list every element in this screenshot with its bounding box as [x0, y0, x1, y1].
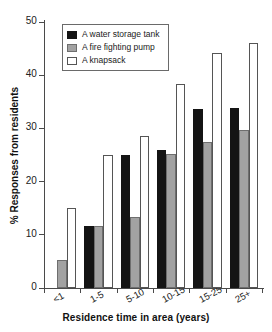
legend-swatch-icon: [67, 57, 77, 65]
y-tick-label: 20: [26, 175, 37, 186]
bar: [249, 43, 259, 288]
bar-chart: 01020304050 <11-55-1010-1515-2525+ A wat…: [0, 0, 272, 332]
x-tick-mark: [226, 288, 227, 293]
bar: [157, 150, 167, 288]
x-tick-label: <1: [51, 290, 66, 305]
bar: [140, 136, 150, 288]
bar: [121, 155, 131, 288]
bar: [230, 108, 240, 288]
legend-swatch-icon: [67, 44, 77, 52]
bar: [166, 154, 176, 288]
bar: [239, 130, 249, 288]
bar: [130, 217, 140, 288]
legend-item: A knapsack: [67, 54, 164, 67]
x-tick-label: 1-5: [88, 289, 105, 305]
bar: [193, 109, 203, 288]
legend-swatch-icon: [67, 31, 77, 39]
x-tick-mark: [44, 288, 45, 293]
bar: [57, 260, 67, 288]
y-tick-label: 30: [26, 121, 37, 132]
legend-item: A fire fighting pump: [67, 41, 164, 54]
x-tick-mark: [262, 288, 263, 293]
bar: [94, 226, 104, 288]
bar: [67, 208, 77, 288]
bar: [203, 142, 213, 288]
y-tick-label: 40: [26, 68, 37, 79]
bar: [103, 155, 113, 288]
y-axis-title: % Responses from residents: [9, 56, 20, 256]
legend-item-label: A water storage tank: [82, 30, 160, 39]
legend-item-label: A fire fighting pump: [82, 43, 155, 52]
x-tick-mark: [153, 288, 154, 293]
y-tick-label: 10: [26, 228, 37, 239]
x-tick-mark: [80, 288, 81, 293]
x-tick-label: 25+: [233, 287, 252, 304]
bar: [176, 84, 186, 288]
x-axis-line: [44, 288, 264, 289]
x-tick-mark: [189, 288, 190, 293]
x-axis-title: Residence time in area (years): [0, 312, 272, 323]
bar: [212, 53, 222, 288]
bar: [84, 226, 94, 288]
y-tick-label: 0: [31, 281, 37, 292]
legend-item-label: A knapsack: [82, 56, 125, 65]
x-tick-mark: [117, 288, 118, 293]
legend: A water storage tank A fire fighting pum…: [62, 24, 169, 71]
legend-item: A water storage tank: [67, 28, 164, 41]
y-tick-label: 50: [26, 15, 37, 26]
